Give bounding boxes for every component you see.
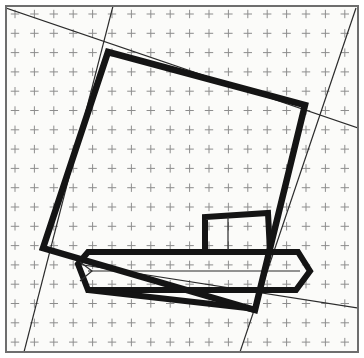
- technical-drawing: [0, 0, 364, 358]
- drawing-canvas: [0, 0, 364, 358]
